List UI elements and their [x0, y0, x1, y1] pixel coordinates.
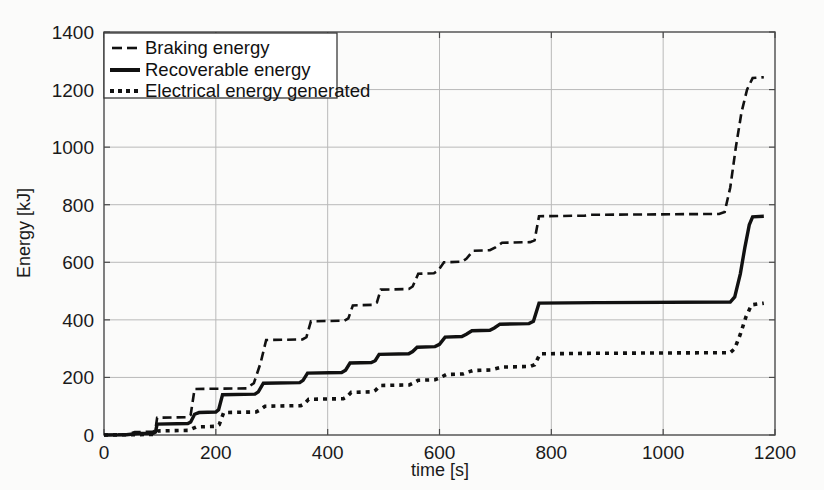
x-tick-label: 200: [200, 442, 232, 463]
y-tick-label: 200: [62, 367, 94, 388]
energy-line-chart: 020040060080010001200 020040060080010001…: [0, 0, 824, 490]
y-axis-title: Energy [kJ]: [14, 188, 34, 278]
y-tick-label: 1200: [52, 80, 94, 101]
legend-label-braking-energy: Braking energy: [145, 37, 270, 58]
legend[interactable]: Braking energy Recoverable energy Electr…: [104, 33, 370, 101]
legend-label-recoverable-energy: Recoverable energy: [145, 59, 311, 80]
x-tick-label: 800: [535, 442, 567, 463]
x-tick-label: 0: [99, 442, 110, 463]
y-tick-label: 800: [62, 195, 94, 216]
x-tick-label: 1000: [642, 442, 684, 463]
y-tick-label: 400: [62, 310, 94, 331]
legend-item-electrical-energy[interactable]: Electrical energy generated: [110, 80, 370, 101]
y-tick-label: 600: [62, 252, 94, 273]
figure-container: 020040060080010001200 020040060080010001…: [0, 0, 824, 490]
x-axis-title: time [s]: [411, 460, 469, 480]
y-tick-label: 1400: [52, 22, 94, 43]
legend-label-electrical-energy: Electrical energy generated: [145, 80, 370, 101]
y-tick-label: 1000: [52, 137, 94, 158]
x-tick-label: 1200: [754, 442, 796, 463]
x-tick-label: 400: [312, 442, 344, 463]
y-tick-label: 0: [83, 425, 94, 446]
